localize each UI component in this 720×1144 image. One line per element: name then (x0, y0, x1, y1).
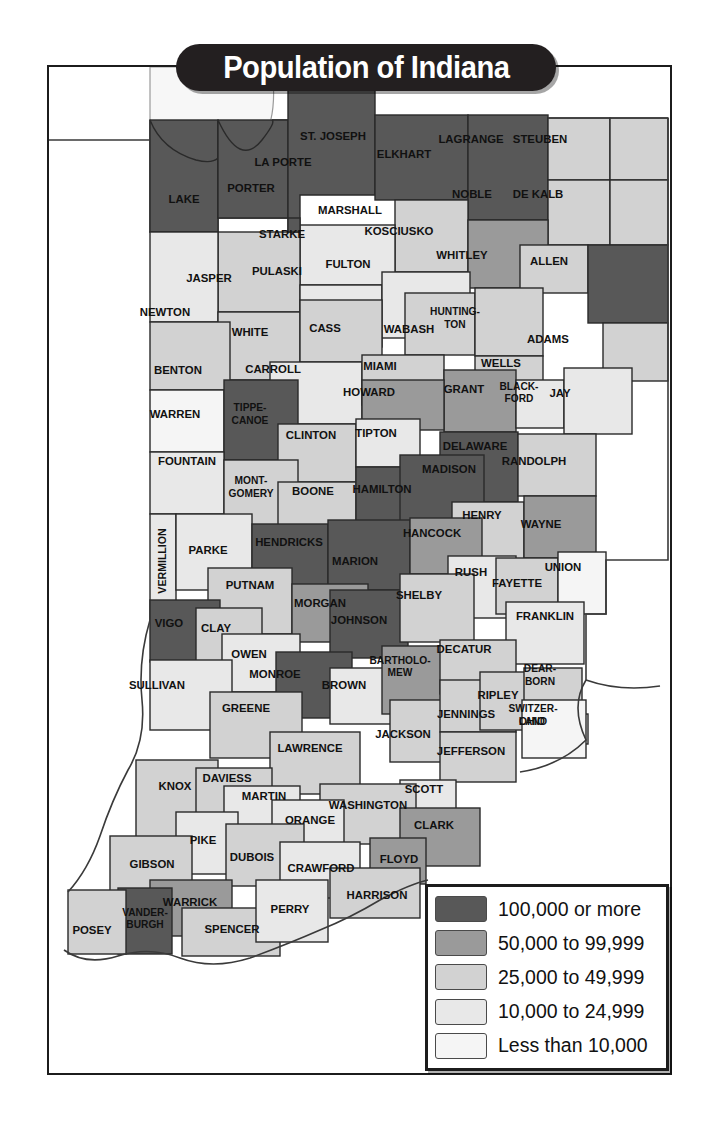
label-montgomery-1: MONT- (235, 475, 268, 486)
label-hendricks: HENDRICKS (255, 536, 323, 548)
label-blackford-2: FORD (505, 393, 534, 404)
label-noble: NOBLE (452, 188, 492, 200)
label-decatur: DECATUR (437, 643, 492, 655)
county-whitley[interactable] (520, 245, 588, 293)
label-switzerland-2: LAND (519, 716, 547, 727)
county-warren[interactable] (150, 390, 224, 452)
county-elkhart[interactable] (468, 115, 548, 220)
county-shelby[interactable] (400, 574, 474, 642)
label-huntington-2: TON (444, 319, 465, 330)
label-lagrange: LAGRANGE (438, 133, 504, 145)
label-kosciusko: KOSCIUSKO (365, 225, 434, 237)
label-daviess: DAVIESS (202, 772, 252, 784)
label-blackford-1: BLACK- (499, 381, 538, 392)
label-pulaski: PULASKI (252, 265, 302, 277)
legend-swatch-100k (435, 896, 487, 922)
label-warren: WARREN (150, 408, 201, 420)
label-benton: BENTON (154, 364, 202, 376)
legend-label-25k: 25,000 to 49,999 (498, 966, 644, 989)
county-jay[interactable] (564, 368, 632, 434)
label-martin: MARTIN (242, 790, 286, 802)
label-tipton: TIPTON (355, 427, 397, 439)
label-marion: MARION (332, 555, 378, 567)
label-miami: MIAMI (363, 360, 397, 372)
label-whitley: WHITLEY (436, 249, 488, 261)
label-madison: MADISON (422, 463, 476, 475)
label-clay: CLAY (201, 622, 231, 634)
label-elkhart: ELKHART (377, 148, 431, 160)
label-lake: LAKE (168, 193, 199, 205)
label-spencer: SPENCER (204, 923, 259, 935)
label-fayette: FAYETTE (492, 577, 543, 589)
label-jennings: JENNINGS (437, 708, 496, 720)
county-posey[interactable] (68, 890, 126, 954)
label-adams: ADAMS (527, 333, 569, 345)
label-shelby: SHELBY (396, 589, 443, 601)
label-vanderburgh-1: VANDER- (122, 907, 168, 918)
legend-swatch-50k (435, 930, 487, 956)
label-dearborn-1: DEAR- (524, 663, 556, 674)
label-morgan: MORGAN (294, 597, 346, 609)
label-white: WHITE (232, 326, 269, 338)
label-grant: GRANT (444, 383, 485, 395)
label-crawford: CRAWFORD (287, 862, 354, 874)
legend-label-100k: 100,000 or more (498, 898, 641, 921)
legend-label-10k: 10,000 to 24,999 (498, 1000, 644, 1023)
label-gibson: GIBSON (130, 858, 175, 870)
label-monroe: MONROE (249, 668, 301, 680)
label-randolph: RANDOLPH (502, 455, 567, 467)
label-rush: RUSH (455, 566, 487, 578)
legend-item[interactable]: 25,000 to 49,999 (435, 961, 657, 994)
label-bartholomew-1: BARTHOLO- (369, 655, 430, 666)
label-jackson: JACKSON (375, 728, 431, 740)
label-franklin: FRANKLIN (516, 610, 574, 622)
legend-item[interactable]: 10,000 to 24,999 (435, 995, 657, 1028)
label-parke: PARKE (188, 544, 227, 556)
label-scott: SCOTT (405, 783, 444, 795)
label-wayne: WAYNE (521, 518, 562, 530)
label-carroll: CARROLL (245, 363, 301, 375)
label-hancock: HANCOCK (403, 527, 462, 539)
label-starke: STARKE (259, 228, 305, 240)
label-ripley: RIPLEY (477, 689, 519, 701)
county-lagrange[interactable] (548, 118, 610, 180)
label-johnson: JOHNSON (331, 614, 387, 626)
label-fulton: FULTON (325, 258, 370, 270)
label-putnam: PUTNAM (226, 579, 275, 591)
legend-item[interactable]: 100,000 or more (435, 893, 657, 926)
label-vanderburgh-2: BURGH (126, 919, 163, 930)
county-benton[interactable] (150, 322, 230, 390)
label-cass: CASS (309, 322, 341, 334)
legend-swatch-low (435, 1033, 487, 1059)
label-tippecanoe-2: CANOE (232, 415, 269, 426)
label-lawrence: LAWRENCE (277, 742, 343, 754)
label-union: UNION (545, 561, 582, 573)
county-dekalb[interactable] (610, 180, 668, 245)
label-stjoseph: ST. JOSEPH (300, 130, 366, 142)
legend-swatch-10k (435, 999, 487, 1025)
legend-label-low: Less than 10,000 (498, 1034, 648, 1057)
legend-swatch-25k (435, 964, 487, 990)
county-allen[interactable] (588, 245, 668, 323)
label-floyd: FLOYD (380, 853, 419, 865)
county-steuben[interactable] (610, 118, 668, 180)
label-harrison: HARRISON (347, 889, 408, 901)
label-clark: CLARK (414, 819, 455, 831)
label-dekalb: DE KALB (513, 188, 564, 200)
label-greene: GREENE (222, 702, 271, 714)
legend-item[interactable]: Less than 10,000 (435, 1029, 657, 1062)
label-washington: WASHINGTON (329, 799, 407, 811)
label-steuben: STEUBEN (513, 133, 567, 145)
county-huntington[interactable] (475, 288, 543, 356)
label-marshall: MARSHALL (318, 204, 382, 216)
page-title: Population of Indiana (223, 50, 509, 86)
label-fountain: FOUNTAIN (158, 455, 216, 467)
label-owen: OWEN (231, 648, 266, 660)
legend: 100,000 or more 50,000 to 99,999 25,000 … (425, 884, 669, 1071)
label-montgomery-2: GOMERY (229, 488, 274, 499)
label-vermillion: VERMILLION (156, 528, 168, 593)
label-bartholomew-2: MEW (388, 667, 413, 678)
legend-item[interactable]: 50,000 to 99,999 (435, 927, 657, 960)
label-laporte: LA PORTE (254, 156, 312, 168)
label-warrick: WARRICK (163, 896, 218, 908)
